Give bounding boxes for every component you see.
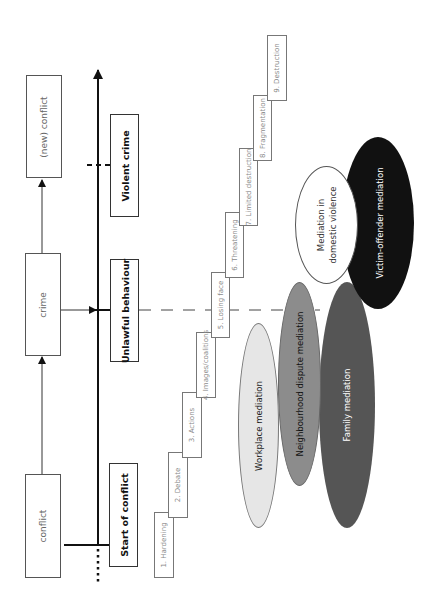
escalation-step-5: 5. Losing face bbox=[211, 272, 230, 338]
escalation-step-4: 4. Images/coalitions bbox=[196, 332, 216, 398]
neighbourhood-mediation-label: Neighbourhood dispute mediation bbox=[295, 312, 305, 457]
ellipse-domestic-violence-mediation: Mediation in domestic violence bbox=[295, 166, 358, 284]
escalation-step-9: 9. Destruction bbox=[267, 35, 287, 101]
ellipse-workplace-mediation: Workplace mediation bbox=[238, 323, 279, 528]
node-conflict: conflict bbox=[25, 474, 61, 578]
step-label: 9. Destruction bbox=[273, 43, 281, 93]
stage-start-of-conflict: Start of conflict bbox=[109, 463, 138, 567]
step-label: 1. Hardening bbox=[160, 522, 168, 567]
stage-unlawful-label: Unlawful behaviour bbox=[119, 258, 130, 362]
ellipse-family-mediation: Family mediation bbox=[319, 282, 375, 528]
node-crime-label: crime bbox=[38, 292, 48, 317]
step-label: 6. Threatening bbox=[231, 219, 239, 270]
escalation-step-3: 3. Actions bbox=[182, 392, 202, 458]
domestic-label-line2: domestic violence bbox=[327, 186, 339, 263]
domestic-label-line1: Mediation in bbox=[315, 186, 327, 263]
escalation-step-2: 2. Debate bbox=[168, 452, 188, 518]
node-new-conflict: (new) conflict bbox=[26, 75, 62, 178]
step-label: 5. Losing face bbox=[217, 281, 225, 330]
node-conflict-label: conflict bbox=[38, 510, 48, 543]
node-new-conflict-label: (new) conflict bbox=[39, 96, 49, 157]
stage-start-label: Start of conflict bbox=[118, 473, 129, 557]
step-label: 4. Images/coalitions bbox=[202, 330, 210, 400]
family-mediation-label: Family mediation bbox=[342, 369, 352, 442]
step-label: 3. Actions bbox=[188, 408, 196, 442]
victim-offender-mediation-label: Victim-offender mediation bbox=[375, 167, 385, 278]
step-label: 8. Fragmentation bbox=[259, 98, 267, 158]
stage-unlawful-behaviour: Unlawful behaviour bbox=[110, 259, 139, 362]
stage-violent-label: Violent crime bbox=[119, 130, 130, 201]
workplace-mediation-label: Workplace mediation bbox=[254, 381, 264, 471]
node-crime: crime bbox=[25, 253, 61, 356]
step-label: 2. Debate bbox=[174, 468, 182, 502]
escalation-step-1: 1. Hardening bbox=[154, 512, 174, 578]
ellipse-neighbourhood-mediation: Neighbourhood dispute mediation bbox=[278, 282, 321, 486]
domestic-violence-mediation-label: Mediation in domestic violence bbox=[315, 186, 339, 263]
stage-violent-crime: Violent crime bbox=[110, 114, 139, 217]
step-label: 7. Limited destruction bbox=[245, 149, 253, 226]
escalation-step-8: 8. Fragmentation bbox=[253, 95, 272, 161]
